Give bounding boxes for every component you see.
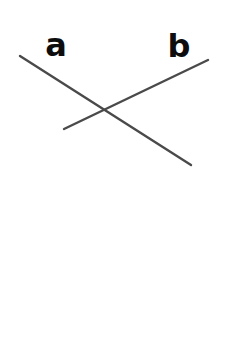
diagram-canvas: a b: [0, 0, 232, 340]
label-a: a: [45, 26, 67, 64]
intersecting-lines-diagram: a b: [0, 0, 232, 340]
label-b: b: [168, 27, 191, 65]
line-a: [20, 56, 191, 165]
line-b: [64, 60, 208, 129]
